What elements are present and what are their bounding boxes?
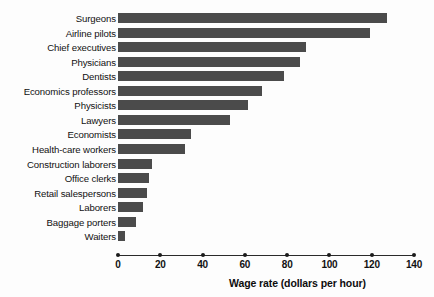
bar-row: Baggage porters <box>0 217 434 231</box>
bar <box>118 13 387 23</box>
bar-row: Construction laborers <box>0 159 434 173</box>
bar <box>118 86 262 96</box>
tick-label: 140 <box>406 259 422 271</box>
bar-row: Economics professors <box>0 86 434 100</box>
tick-label: 120 <box>364 259 380 271</box>
tick-marker <box>201 253 205 257</box>
tick-marker <box>285 253 289 257</box>
category-label: Office clerks <box>65 173 116 184</box>
bar <box>118 173 149 183</box>
bar-row: Chief executives <box>0 42 434 56</box>
tick-label: 40 <box>197 259 208 271</box>
tick-marker <box>370 253 374 257</box>
tick-label: 60 <box>239 259 250 271</box>
bar <box>118 71 284 81</box>
category-label: Baggage porters <box>47 217 116 228</box>
tick-marker <box>116 253 120 257</box>
bar <box>118 144 185 154</box>
bar-row: Lawyers <box>0 115 434 129</box>
tick-label: 20 <box>155 259 166 271</box>
wage-rate-bar-chart: SurgeonsAirline pilotsChief executivesPh… <box>0 0 434 297</box>
category-label: Airline pilots <box>66 28 116 39</box>
bar-row: Laborers <box>0 202 434 216</box>
category-label: Physicists <box>74 100 116 111</box>
category-label: Dentists <box>82 71 116 82</box>
bar <box>118 231 125 241</box>
x-axis-title: Wage rate (dollars per hour) <box>229 277 366 289</box>
bar <box>118 129 191 139</box>
category-label: Construction laborers <box>27 159 116 170</box>
bar-row: Retail salespersons <box>0 188 434 202</box>
bar <box>118 57 300 67</box>
tick-marker <box>243 253 247 257</box>
tick-label: 0 <box>115 259 120 271</box>
category-label: Retail salespersons <box>34 188 116 199</box>
bar-row: Office clerks <box>0 173 434 187</box>
bar-row: Economists <box>0 129 434 143</box>
bar-row: Physicists <box>0 100 434 114</box>
bar-row: Airline pilots <box>0 28 434 42</box>
bar <box>118 159 152 169</box>
tick-marker <box>158 253 162 257</box>
bar <box>118 115 230 125</box>
bar <box>118 28 370 38</box>
tick-label: 100 <box>321 259 337 271</box>
category-label: Lawyers <box>81 115 116 126</box>
bar <box>118 100 248 110</box>
category-label: Economics professors <box>24 86 116 97</box>
bar-row: Health-care workers <box>0 144 434 158</box>
bar-row: Waiters <box>0 231 434 245</box>
category-label: Laborers <box>79 202 116 213</box>
bar <box>118 42 306 52</box>
bar-row: Surgeons <box>0 13 434 27</box>
bar <box>118 188 147 198</box>
tick-label: 80 <box>282 259 293 271</box>
bar <box>118 202 143 212</box>
category-label: Chief executives <box>47 42 116 53</box>
category-label: Physicians <box>71 57 116 68</box>
category-label: Economists <box>67 129 116 140</box>
bar-row: Physicians <box>0 57 434 71</box>
category-label: Health-care workers <box>32 144 116 155</box>
tick-marker <box>412 253 416 257</box>
category-label: Surgeons <box>76 13 116 24</box>
bar-row: Dentists <box>0 71 434 85</box>
category-label: Waiters <box>85 231 116 242</box>
bar <box>118 217 136 227</box>
